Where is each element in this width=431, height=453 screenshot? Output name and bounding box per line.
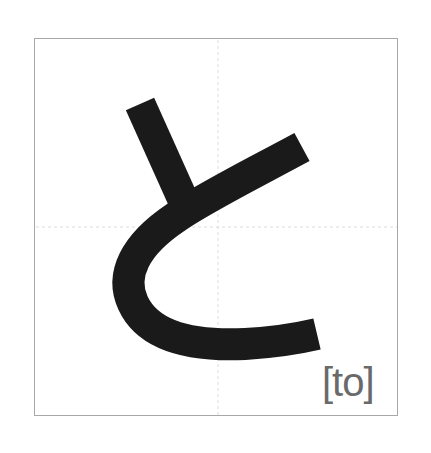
- stroke-1: [140, 104, 184, 202]
- romaji-label: [to]: [322, 358, 374, 406]
